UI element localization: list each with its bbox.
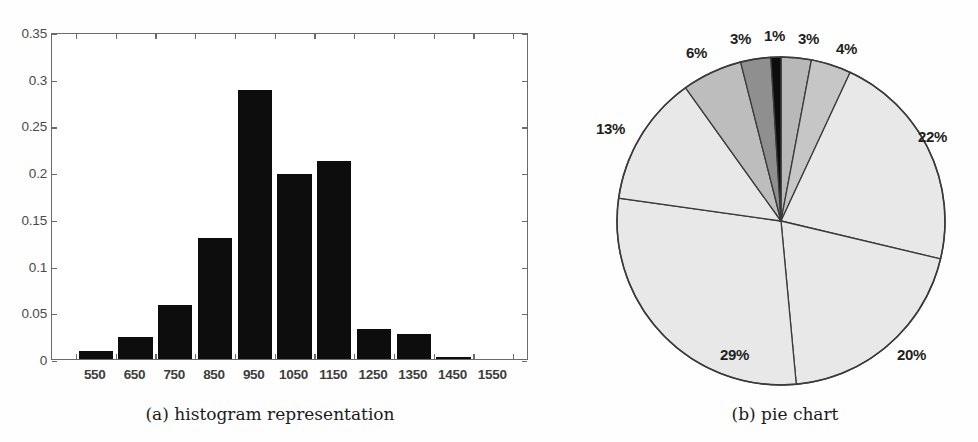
- pie-percent-label: 20%: [897, 346, 926, 363]
- y-tick-label: 0.05: [4, 306, 47, 321]
- pie-percent-label: 3%: [730, 30, 751, 47]
- y-tick-label: 0.25: [4, 119, 47, 134]
- x-tick-label: 750: [163, 367, 185, 382]
- y-tick-label: 0.15: [4, 212, 47, 227]
- x-tick-mark: [116, 354, 117, 359]
- y-tick-label: 0: [4, 353, 47, 368]
- x-tick-mark-top: [195, 34, 196, 39]
- x-tick-mark: [195, 354, 196, 359]
- y-tick-mark-right: [522, 268, 527, 269]
- figure-container: 00.050.10.150.20.250.30.35 5506507508509…: [0, 0, 978, 442]
- x-tick-label: 1050: [279, 367, 308, 382]
- histogram-bar: [118, 337, 152, 359]
- y-tick-mark-right: [522, 127, 527, 128]
- x-tick-label: 950: [243, 367, 265, 382]
- x-tick-label: 1150: [319, 367, 347, 382]
- x-axis-labels: 550650750850950105011501250135014501550: [51, 365, 528, 387]
- y-tick-mark-right: [522, 34, 527, 35]
- x-tick-mark-top: [76, 34, 77, 39]
- pie-percent-label: 29%: [720, 346, 749, 363]
- y-tick-label: 0.3: [4, 72, 47, 87]
- y-axis-labels: 00.050.10.150.20.250.30.35: [0, 0, 47, 393]
- x-tick-mark-top: [235, 34, 236, 39]
- x-tick-mark: [275, 354, 276, 359]
- x-tick-label: 650: [124, 367, 146, 382]
- x-tick-label: 1450: [438, 367, 467, 382]
- x-tick-mark-top: [116, 34, 117, 39]
- x-tick-mark: [155, 354, 156, 359]
- x-tick-mark: [513, 354, 514, 359]
- x-tick-mark: [76, 354, 77, 359]
- x-tick-mark-top: [275, 34, 276, 39]
- histogram-bar: [79, 351, 113, 359]
- y-tick-mark-right: [522, 314, 527, 315]
- y-tick-mark-right: [522, 81, 527, 82]
- caption-pie: (b) pie chart: [620, 404, 950, 424]
- x-tick-mark-top: [394, 34, 395, 39]
- pie-chart-svg: [560, 0, 978, 400]
- pie-percent-label: 3%: [798, 30, 819, 47]
- x-tick-mark-top: [513, 34, 514, 39]
- x-tick-mark: [473, 354, 474, 359]
- pie-percent-label: 6%: [686, 44, 707, 61]
- x-tick-label: 1350: [398, 367, 427, 382]
- histogram-bar: [198, 238, 232, 359]
- histogram-plot-area: [51, 33, 528, 360]
- y-tick-mark: [52, 314, 57, 315]
- histogram-bar: [277, 174, 311, 359]
- y-tick-mark: [52, 268, 57, 269]
- y-tick-mark: [52, 127, 57, 128]
- x-tick-mark: [434, 354, 435, 359]
- panel-histogram: 00.050.10.150.20.250.30.35 5506507508509…: [0, 0, 560, 442]
- y-tick-mark-right: [522, 221, 527, 222]
- y-tick-mark: [52, 221, 57, 222]
- x-tick-mark-top: [473, 34, 474, 39]
- x-tick-label: 1250: [359, 367, 388, 382]
- histogram-bar: [357, 329, 391, 359]
- x-tick-mark-top: [354, 34, 355, 39]
- histogram-bar: [158, 305, 192, 359]
- histogram-bar: [397, 334, 431, 359]
- pie-slices: [617, 57, 945, 385]
- y-tick-label: 0.2: [4, 166, 47, 181]
- histogram-bar: [436, 357, 470, 359]
- caption-histogram: (a) histogram representation: [0, 404, 540, 424]
- x-tick-label: 1550: [478, 367, 507, 382]
- pie-percent-label: 13%: [596, 120, 625, 137]
- x-tick-label: 550: [84, 367, 106, 382]
- y-tick-mark: [52, 81, 57, 82]
- x-tick-mark-top: [434, 34, 435, 39]
- y-tick-mark-right: [522, 361, 527, 362]
- x-tick-label: 850: [203, 367, 225, 382]
- histogram-bar: [238, 90, 272, 359]
- y-tick-mark-right: [522, 174, 527, 175]
- x-tick-mark: [354, 354, 355, 359]
- y-tick-label: 0.35: [4, 26, 47, 41]
- panel-pie: 3%4%22%20%29%13%6%3%1% (b) pie chart: [560, 0, 978, 442]
- pie-percent-label: 1%: [764, 27, 785, 44]
- x-tick-mark: [394, 354, 395, 359]
- y-tick-mark: [52, 34, 57, 35]
- x-tick-mark: [314, 354, 315, 359]
- pie-percent-label: 4%: [836, 40, 857, 57]
- histogram-bar: [317, 161, 351, 359]
- pie-percent-label: 22%: [918, 128, 947, 145]
- x-tick-mark: [235, 354, 236, 359]
- y-tick-label: 0.1: [4, 259, 47, 274]
- x-tick-mark-top: [314, 34, 315, 39]
- y-tick-mark: [52, 174, 57, 175]
- pie-slice: [617, 198, 796, 385]
- x-tick-mark-top: [155, 34, 156, 39]
- y-tick-mark: [52, 361, 57, 362]
